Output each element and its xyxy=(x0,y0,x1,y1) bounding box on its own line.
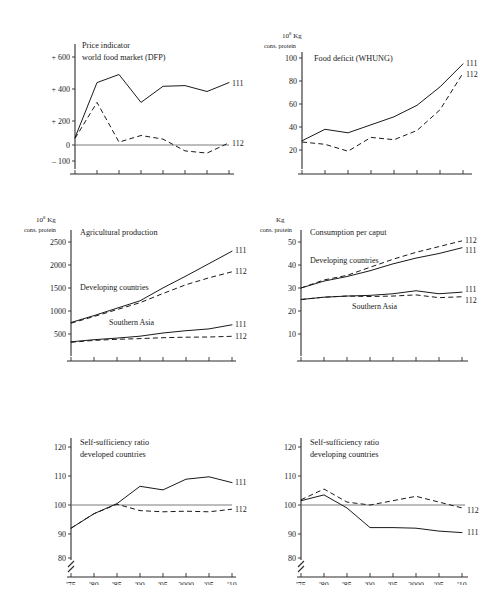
y-tick-label: + 400 xyxy=(51,85,70,94)
y-tick-label: 50 xyxy=(288,238,296,247)
y-tick-label: 120 xyxy=(54,443,66,452)
series-label-112: 112 xyxy=(235,505,247,514)
annotation-developing-countries: Developing countries xyxy=(80,283,149,292)
series-label-southern-asia-112: 112 xyxy=(235,332,247,341)
x-tick-label: '75 xyxy=(296,581,305,585)
annotation-southern-asia: Southern Asia xyxy=(352,302,398,311)
panel-subtitle: world food market (DFP) xyxy=(82,53,166,62)
y-tick-label: 100 xyxy=(284,501,296,510)
x-tick-label: '85 xyxy=(342,581,351,585)
y-tick-label: 2500 xyxy=(50,238,66,247)
y-tick-label: 40 xyxy=(288,261,296,270)
y-axis-unit: 108 Kg xyxy=(36,215,56,224)
y-tick-label: 1000 xyxy=(50,307,66,316)
series-label-southern-asia-111: 111 xyxy=(465,285,476,294)
series-label-111: 111 xyxy=(466,59,477,68)
x-tick-label: 2000 xyxy=(178,581,194,585)
y-tick-label: 100 xyxy=(54,501,66,510)
series-label-southern-asia-112: 112 xyxy=(465,296,477,305)
y-tick-label: 80 xyxy=(288,554,296,563)
panel-title: Self-sufficiency ratio xyxy=(310,438,379,447)
y-tick-label: 20 xyxy=(289,146,297,155)
panel-food-deficit: 108 Kg cons. protein 100 80 60 40 20 Foo… xyxy=(252,24,492,196)
x-tick-label: '90 xyxy=(365,581,374,585)
series-label-111: 111 xyxy=(232,79,243,88)
panel-consumption-per-caput: Kg cons. protein 50 40 30 20 10 Consumpt… xyxy=(252,208,492,383)
y-tick-label: 120 xyxy=(284,443,296,452)
y-axis-unit-sub: cons. protein xyxy=(264,42,296,49)
series-label-southern-asia-111: 111 xyxy=(235,320,246,329)
panel-self-sufficiency-developing: 120 110 100 90 80 Self-sufficiency ratio… xyxy=(252,420,492,585)
series-line-112 xyxy=(75,102,229,153)
figure-six-panel-chart-grid: + 600 + 400 + 200 0 – 100 Price indicato… xyxy=(0,0,498,596)
x-tick-label: '95 xyxy=(158,581,167,585)
y-tick-label: + 200 xyxy=(51,117,70,126)
y-tick-label: 2000 xyxy=(50,261,66,270)
x-tick-label: '95 xyxy=(388,581,397,585)
series-label-112: 112 xyxy=(467,506,479,515)
series-line-developing-111 xyxy=(301,248,462,288)
x-tick-label: '10 xyxy=(227,581,236,585)
y-axis-unit: 108 Kg xyxy=(282,31,302,40)
series-label-developing-112: 112 xyxy=(465,236,477,245)
axis-break-icon xyxy=(68,561,74,572)
axis-break-icon xyxy=(298,561,304,572)
y-tick-label: 110 xyxy=(284,472,296,481)
panel-subtitle: developing countries xyxy=(310,450,378,459)
y-tick-label: 80 xyxy=(58,554,66,563)
series-line-111 xyxy=(71,477,232,528)
x-tick-label: '05 xyxy=(204,581,213,585)
y-tick-label: 0 xyxy=(66,141,70,150)
x-tick-label: '05 xyxy=(434,581,443,585)
series-label-112: 112 xyxy=(232,139,244,148)
y-tick-label: + 600 xyxy=(51,53,70,62)
series-label-111: 111 xyxy=(467,528,478,537)
y-tick-label: 110 xyxy=(54,472,66,481)
y-tick-label: 500 xyxy=(54,330,66,339)
y-tick-label: 90 xyxy=(58,530,66,539)
annotation-developing-countries: Developing countries xyxy=(310,256,379,265)
y-tick-label: 40 xyxy=(289,123,297,132)
y-axis-unit: Kg xyxy=(276,216,285,224)
x-tick-label: '80 xyxy=(89,581,98,585)
panel-title: Consumption per caput xyxy=(310,228,387,237)
y-tick-label: 30 xyxy=(288,284,296,293)
y-tick-label: 100 xyxy=(285,54,297,63)
y-axis-unit-sub: cons. protein xyxy=(24,226,56,233)
y-tick-label: 20 xyxy=(288,307,296,316)
panel-price-indicator: + 600 + 400 + 200 0 – 100 Price indicato… xyxy=(22,24,250,196)
y-tick-label: 60 xyxy=(289,100,297,109)
series-label-111: 111 xyxy=(235,478,246,487)
x-tick-label: '85 xyxy=(112,581,121,585)
panel-title: Food deficit (WHUNG) xyxy=(314,54,393,63)
x-tick-label: 2000 xyxy=(408,581,424,585)
series-line-111 xyxy=(302,64,463,141)
y-tick-label: 10 xyxy=(288,330,296,339)
series-label-developing-111: 111 xyxy=(235,246,246,255)
y-axis-unit-sub: cons. protein xyxy=(260,226,292,233)
panel-self-sufficiency-developed: 120 110 100 90 80 Self-sufficiency ratio… xyxy=(22,420,256,585)
annotation-southern-asia: Southern Asia xyxy=(109,318,155,327)
series-line-southern-asia-111 xyxy=(301,291,462,300)
panel-title: Self-sufficiency ratio xyxy=(80,438,149,447)
y-tick-label: 80 xyxy=(289,77,297,86)
series-line-111 xyxy=(301,495,462,533)
series-label-developing-111: 111 xyxy=(465,246,476,255)
series-line-112 xyxy=(302,73,463,151)
series-line-southern-asia-111 xyxy=(71,325,232,342)
x-tick-label: '10 xyxy=(457,581,466,585)
series-label-developing-112: 112 xyxy=(235,267,247,276)
x-tick-label: '80 xyxy=(319,581,328,585)
x-tick-label: '90 xyxy=(135,581,144,585)
y-tick-label: 90 xyxy=(288,530,296,539)
panel-title: Price indicator xyxy=(82,41,130,50)
panel-title: Agricultural production xyxy=(80,228,158,237)
y-tick-label: 1500 xyxy=(50,284,66,293)
x-tick-label: '75 xyxy=(66,581,75,585)
series-line-112 xyxy=(71,504,232,528)
series-label-112: 112 xyxy=(466,70,478,79)
y-tick-label: – 100 xyxy=(51,157,70,166)
panel-agricultural-production: 108 Kg cons. protein 2500 2000 1500 1000… xyxy=(22,208,256,383)
series-line-111 xyxy=(75,75,229,138)
panel-subtitle: developed countries xyxy=(80,450,146,459)
